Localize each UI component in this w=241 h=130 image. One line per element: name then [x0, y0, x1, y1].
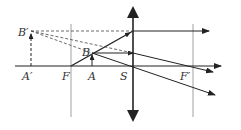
label-s: S [120, 70, 128, 83]
ray-refracted-through-f-prime [133, 53, 213, 72]
lens-ray-diagram: B′ B A′ F A S F′ [0, 0, 241, 130]
label-b-prime: B′ [17, 26, 29, 39]
label-a-prime: A′ [21, 70, 33, 83]
ray-through-center [92, 53, 215, 95]
label-a: A [87, 70, 96, 83]
lens-top-arrow-icon [127, 6, 139, 18]
lens-bottom-arrow-icon [127, 110, 139, 122]
label-f: F [61, 70, 70, 83]
label-f-prime: F′ [179, 70, 191, 83]
label-b: B [81, 46, 90, 59]
